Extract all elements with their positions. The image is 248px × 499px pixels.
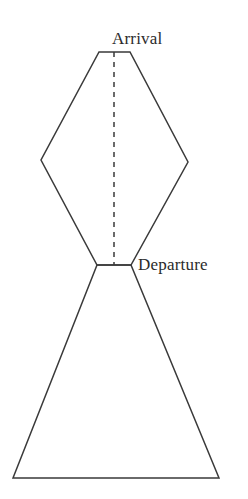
departure-label: Departure [138,256,208,273]
bowtie-figure [0,0,248,499]
diagram-canvas: Arrival Departure [0,0,248,499]
arrival-label: Arrival [112,30,163,47]
figure-background [0,0,248,499]
